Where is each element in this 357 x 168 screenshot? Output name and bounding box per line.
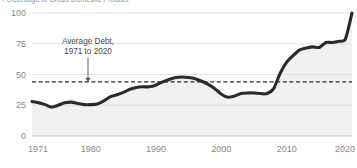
y-axis-ticks: 0255075100	[11, 8, 26, 141]
debt-to-gdp-chart: Percentage of Gross Domestic Product 025…	[0, 0, 357, 168]
annotation-line-1: Average Debt,	[62, 37, 114, 46]
x-tick-label-1980: 1980	[81, 144, 101, 154]
x-tick-label-2020: 2020	[335, 144, 355, 154]
y-tick-label-25: 25	[16, 100, 26, 110]
x-axis-ticks: 197119801990200020102020	[28, 144, 355, 154]
y-tick-label-100: 100	[11, 8, 26, 18]
annotation-line-2: 1971 to 2020	[64, 47, 112, 56]
y-tick-label-75: 75	[16, 39, 26, 49]
average-debt-annotation: Average Debt, 1971 to 2020	[62, 37, 114, 82]
down-arrow-icon	[85, 78, 90, 82]
y-tick-label-50: 50	[16, 70, 26, 80]
x-tick-label-1971: 1971	[28, 144, 48, 154]
chart-plot-area: 0255075100 Average Debt, 1971 to 2020 19…	[0, 0, 357, 168]
y-tick-label-0: 0	[21, 131, 26, 141]
x-tick-label-2010: 2010	[277, 144, 297, 154]
x-tick-label-2000: 2000	[211, 144, 231, 154]
x-tick-label-1990: 1990	[146, 144, 166, 154]
